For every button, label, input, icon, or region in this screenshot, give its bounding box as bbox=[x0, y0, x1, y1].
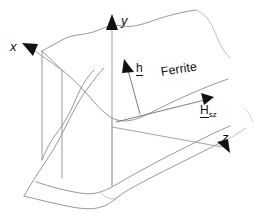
slab-frame-remnant-right bbox=[244, 108, 253, 122]
slab-bottom-left-torn-edge bbox=[24, 68, 104, 196]
hsz-vector-label-text: H bbox=[200, 103, 209, 118]
slab-left-face-torn-edge bbox=[42, 70, 94, 160]
y-axis-arrowhead bbox=[106, 14, 118, 30]
h-vector-arrowhead bbox=[122, 59, 134, 73]
x-axis-label: x bbox=[10, 40, 17, 53]
coordinate-axes bbox=[22, 14, 230, 186]
slab-top-left-edge bbox=[42, 51, 62, 70]
slab-right-receding-edge bbox=[226, 128, 246, 140]
h-vector-label-text: h bbox=[136, 61, 143, 76]
slab-top-right-torn-edge bbox=[196, 10, 230, 58]
ferrite-diagram-figure: x y z h Hsz Ferrite bbox=[0, 0, 255, 221]
slab-bottom-front-torn-edge-upper bbox=[36, 126, 230, 194]
hsz-vector-shaft bbox=[116, 100, 205, 122]
z-axis-label: z bbox=[222, 131, 229, 144]
x-axis-shaft bbox=[32, 49, 62, 70]
hsz-vector-label: Hsz bbox=[200, 104, 217, 119]
h-vector-label: h bbox=[136, 62, 143, 74]
slab-bottom-front-torn-edge-lower bbox=[24, 140, 226, 209]
slab-top-back-torn-edge bbox=[42, 10, 196, 51]
slab-bottom-corner-notch bbox=[100, 192, 124, 199]
h-vector-shaft bbox=[128, 70, 140, 114]
y-axis-label: y bbox=[121, 14, 128, 27]
x-axis-arrowhead bbox=[22, 43, 38, 56]
hsz-vector-label-subscript: sz bbox=[209, 110, 217, 119]
